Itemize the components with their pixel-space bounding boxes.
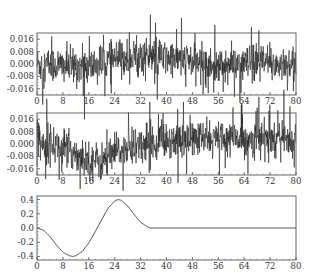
x-tick-label: 32 xyxy=(135,176,146,186)
y-tick-label: 0.000 xyxy=(10,59,34,69)
x-tick-label: 16 xyxy=(83,261,94,271)
y-tick-label: 0.016 xyxy=(10,114,34,124)
y-tick-label: -0.008 xyxy=(7,151,34,161)
x-tick-label: 16 xyxy=(83,96,94,106)
y-tick-label: 0.008 xyxy=(10,47,34,57)
y-tick-label: -0.016 xyxy=(7,164,34,174)
series-line xyxy=(37,200,296,257)
x-tick-label: 64 xyxy=(239,176,250,186)
x-tick-label: 24 xyxy=(109,96,120,106)
x-tick-label: 80 xyxy=(291,96,302,106)
x-tick-label: 8 xyxy=(60,176,65,186)
y-tick-label: 0.000 xyxy=(10,139,34,149)
x-tick-label: 56 xyxy=(213,176,224,186)
x-tick-label: 16 xyxy=(83,176,94,186)
x-tick-label: 48 xyxy=(187,176,198,186)
x-tick-label: 0 xyxy=(34,261,39,271)
x-tick-label: 64 xyxy=(239,261,250,271)
x-tick-label: 24 xyxy=(109,261,120,271)
x-tick-label: 56 xyxy=(213,261,224,271)
x-tick-label: 56 xyxy=(213,96,224,106)
x-tick-label: 0 xyxy=(34,176,39,186)
x-tick-label: 48 xyxy=(187,261,198,271)
y-tick-label: -0.016 xyxy=(7,84,34,94)
y-tick-label: 0.008 xyxy=(10,127,34,137)
x-tick-label: 32 xyxy=(135,96,146,106)
x-tick-label: 80 xyxy=(291,261,302,271)
chart-panel-3: 081624324048566472800.40.20.0-0.2-0.4 xyxy=(18,195,302,271)
y-tick-label: -0.4 xyxy=(18,251,34,261)
x-tick-label: 0 xyxy=(34,96,39,106)
x-tick-label: 8 xyxy=(60,261,65,271)
x-tick-label: 72 xyxy=(265,96,276,106)
x-tick-label: 80 xyxy=(291,176,302,186)
chart-panel-1: 081624324048566472800.0160.0080.000-0.00… xyxy=(7,14,302,119)
y-tick-label: 0.0 xyxy=(20,223,34,233)
x-tick-label: 8 xyxy=(60,96,65,106)
y-tick-label: 0.4 xyxy=(20,195,34,205)
x-tick-label: 32 xyxy=(135,261,146,271)
x-tick-label: 64 xyxy=(239,96,250,106)
y-tick-label: 0.016 xyxy=(10,34,34,44)
x-tick-label: 40 xyxy=(161,176,172,186)
x-tick-label: 40 xyxy=(161,96,172,106)
y-tick-label: -0.008 xyxy=(7,71,34,81)
x-tick-label: 48 xyxy=(187,96,198,106)
chart-panel-2: 081624324048566472800.0160.0080.000-0.00… xyxy=(7,90,302,191)
x-tick-label: 24 xyxy=(109,176,120,186)
y-tick-label: -0.2 xyxy=(18,237,34,247)
chart-canvas: 081624324048566472800.0160.0080.000-0.00… xyxy=(0,0,309,278)
x-tick-label: 40 xyxy=(161,261,172,271)
x-tick-label: 72 xyxy=(265,261,276,271)
x-tick-label: 72 xyxy=(265,176,276,186)
y-tick-label: 0.2 xyxy=(20,209,34,219)
